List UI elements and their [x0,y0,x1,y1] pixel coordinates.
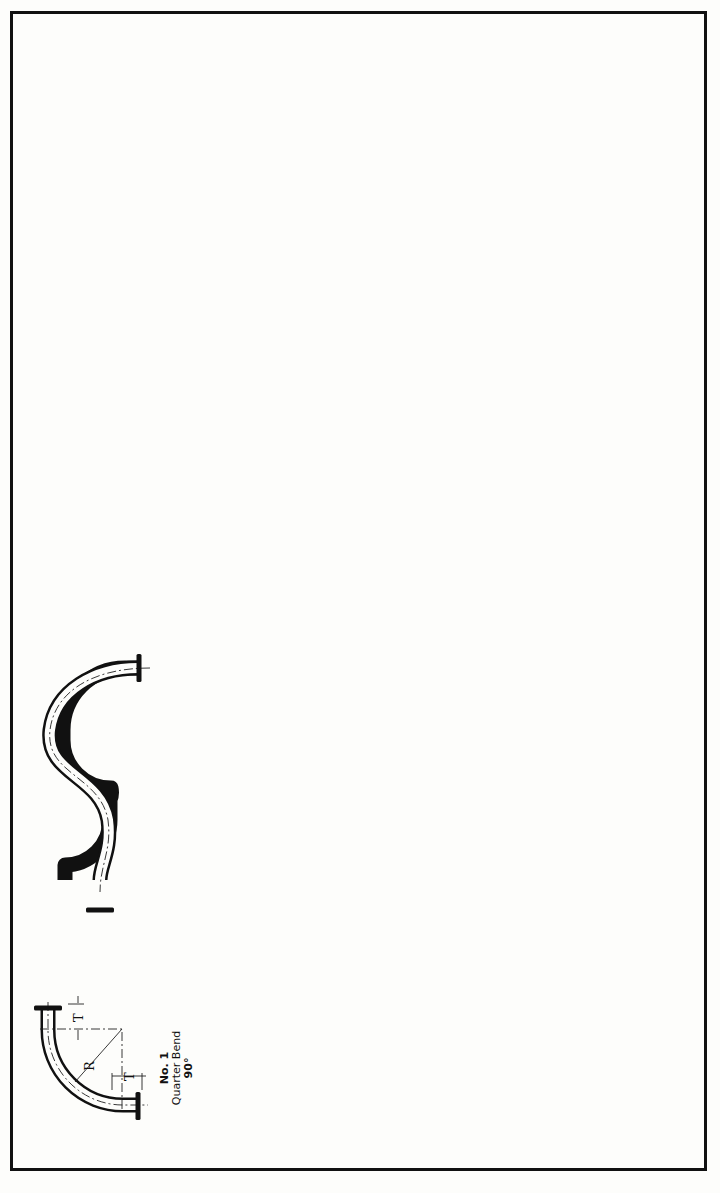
svg-text:T: T [71,1013,86,1022]
pipe-bends-layer: R T T No. 1 Quarter Bend 90° [0,0,720,1193]
svg-text:90°: 90° [182,1058,195,1079]
svg-text:R: R [82,1060,97,1071]
svg-text:T: T [122,1072,137,1081]
